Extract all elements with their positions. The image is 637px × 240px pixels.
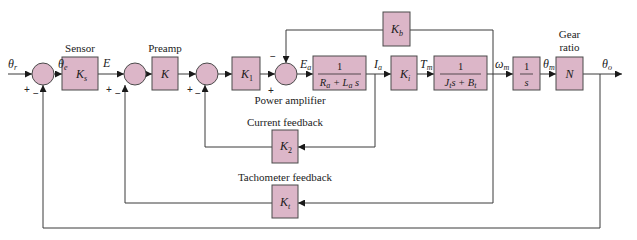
sum2-minus-sign: − — [115, 88, 121, 99]
sum3-plus-sign: + — [187, 84, 193, 95]
gear-ratio-block: Gear ratio N — [556, 28, 583, 90]
summing-junction-3 — [196, 63, 218, 85]
kt-block: Tachometer feedback Kt — [238, 171, 333, 218]
summing-junction-4 — [275, 63, 297, 85]
preamp-block: Preamp K — [148, 42, 182, 90]
tachometer-feedback-caption: Tachometer feedback — [238, 171, 333, 183]
sensor-caption: Sensor — [65, 42, 95, 54]
current-feedback-caption: Current feedback — [247, 116, 324, 128]
summing-junction-1 — [32, 63, 54, 85]
integrator-block: 1 s — [513, 57, 540, 90]
gear-gain: N — [564, 67, 574, 81]
k1-block: K1 — [232, 57, 260, 90]
mechanical-numerator: 1 — [458, 61, 463, 72]
signal-Ia: Ia — [373, 57, 382, 72]
sum1-plus-sign: + — [24, 84, 30, 95]
ki-block: Ki — [391, 56, 417, 90]
mechanical-block: 1 Jts + Bt — [434, 56, 487, 90]
sum2-plus-sign: + — [106, 84, 112, 95]
signal-Ea: Ea — [299, 57, 311, 72]
k2-block: Current feedback K2 — [247, 116, 324, 163]
sum1-minus-sign: − — [33, 88, 39, 99]
sum4-minus-sign: − — [270, 51, 276, 62]
summing-junction-2 — [124, 63, 146, 85]
block-diagram: + − + − + − − + Sensor Ks Preamp K K1 Po… — [0, 0, 637, 240]
signal-theta-r: θr — [8, 57, 18, 72]
power-amplifier-caption: Power amplifier — [254, 94, 326, 106]
signal-E: E — [102, 56, 111, 70]
signal-omega-m: ωm — [495, 57, 509, 72]
gear-caption-line2: ratio — [559, 41, 580, 53]
preamp-caption: Preamp — [148, 42, 182, 54]
wire-omega-to-kt — [298, 74, 493, 203]
wire-kt-to-sum2 — [125, 85, 272, 203]
signal-theta-o: θo — [602, 57, 612, 72]
integrator-denominator: s — [524, 77, 528, 88]
kb-block: Kb — [383, 12, 410, 46]
gear-caption-line1: Gear — [559, 28, 581, 40]
signal-theta-m: θm — [543, 57, 555, 72]
preamp-gain: K — [160, 67, 170, 81]
armature-block: 1 Ra + La s — [313, 56, 366, 90]
armature-numerator: 1 — [337, 61, 342, 72]
integrator-numerator: 1 — [524, 61, 529, 72]
signal-Tm: Tm — [420, 57, 433, 72]
sum3-minus-sign: − — [195, 88, 201, 99]
